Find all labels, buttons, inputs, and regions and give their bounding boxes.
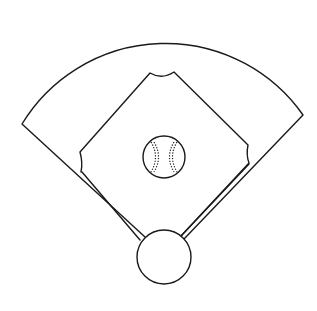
home-plate-circle — [137, 230, 191, 284]
left-foul-line — [82, 172, 140, 240]
field-drawing — [0, 0, 317, 311]
baseball-field-illustration — [0, 0, 317, 311]
baseball-icon — [143, 136, 185, 178]
